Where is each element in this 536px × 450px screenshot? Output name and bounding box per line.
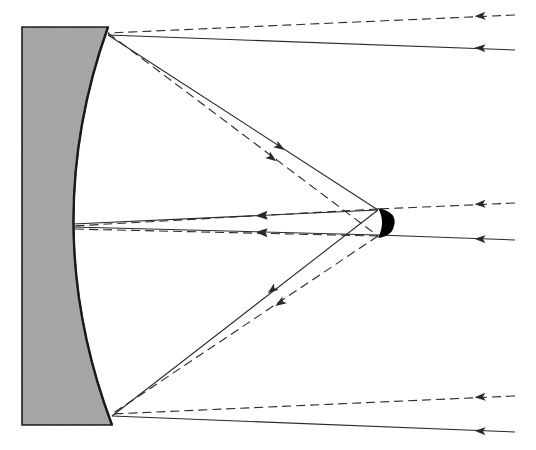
ray-bot-solid-incoming	[112, 416, 515, 432]
arrowhead-icon	[275, 297, 286, 306]
ray-bot-dashed-reflected	[112, 236, 378, 414]
light-rays	[73, 12, 515, 435]
ray-bot-solid-reflected	[112, 210, 378, 416]
ray-bot-dashed-incoming	[112, 396, 515, 414]
ray-top-dashed-reflected	[108, 33, 378, 236]
arrowhead-icon	[475, 200, 486, 208]
mirror-body	[22, 27, 112, 425]
mirror-ray-diagram	[0, 0, 536, 450]
arrowhead-icon	[273, 141, 284, 150]
secondary-mirror-shape	[378, 208, 395, 238]
arrowhead-icon	[475, 393, 486, 401]
arrowhead-icon	[475, 44, 486, 52]
arrowhead-icon	[475, 12, 486, 20]
ray-mid-solid-incoming	[378, 235, 515, 240]
ray-center-dashed-return-2	[73, 229, 378, 236]
diagram-canvas	[0, 0, 536, 450]
primary-concave-mirror	[22, 27, 112, 425]
secondary-convex-mirror	[378, 208, 395, 238]
ray-top-solid-incoming	[108, 35, 515, 50]
ray-mid-dashed-incoming	[378, 203, 515, 209]
ray-center-solid-return-2	[73, 227, 378, 235]
ray-top-dashed-incoming	[108, 15, 515, 33]
ray-top-solid-reflected	[108, 35, 378, 210]
